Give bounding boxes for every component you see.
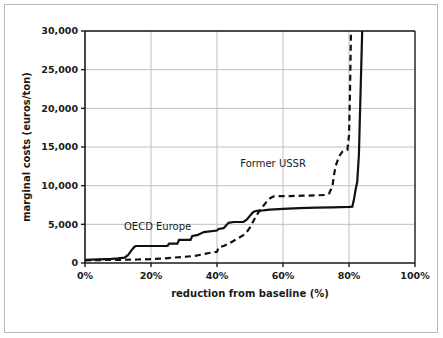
series-label-oecd-europe: OECD Europe <box>124 221 191 232</box>
y-tick-label: 30,000 <box>41 25 78 36</box>
x-axis-title: reduction from baseline (%) <box>171 288 329 299</box>
y-tick-label: 25,000 <box>41 64 78 75</box>
x-tick-label: 60% <box>272 270 295 281</box>
y-axis-title: marginal costs (euros/ton) <box>21 72 32 222</box>
x-tick-label: 80% <box>338 270 361 281</box>
y-tick-label: 10,000 <box>41 180 78 191</box>
x-tick-label: 40% <box>206 270 229 281</box>
x-tick-label: 20% <box>140 270 163 281</box>
series-label-former-ussr: Former USSR <box>240 158 306 169</box>
x-tick-label: 0% <box>77 270 94 281</box>
chart-figure: 05,00010,00015,00020,00025,00030,0000%20… <box>0 0 443 338</box>
y-tick-label: 5,000 <box>48 219 78 230</box>
y-tick-label: 15,000 <box>41 141 78 152</box>
y-axis-ticks: 05,00010,00015,00020,00025,00030,000 <box>41 25 85 268</box>
chart-plot: 05,00010,00015,00020,00025,00030,0000%20… <box>0 0 443 338</box>
y-tick-label: 0 <box>71 257 78 268</box>
y-tick-label: 20,000 <box>41 103 78 114</box>
x-axis-ticks: 0%20%40%60%80%100% <box>77 263 430 281</box>
x-tick-label: 100% <box>400 270 430 281</box>
